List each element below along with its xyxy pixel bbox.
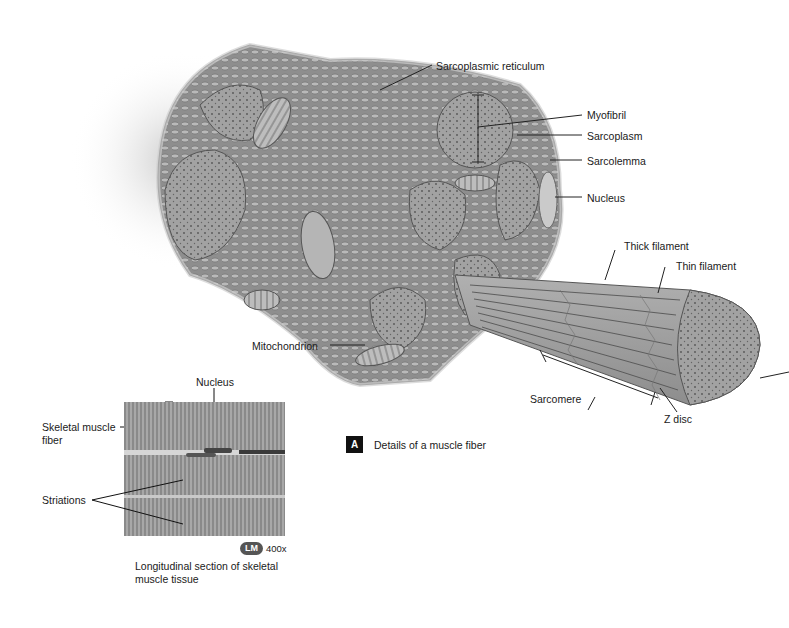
label-mitochondrion: Mitochondrion [252, 340, 318, 352]
micrograph-caption-line1: Longitudinal section of skeletal [135, 560, 278, 573]
myofibril-shape [437, 92, 513, 168]
label-myofibril: Myofibril [587, 109, 626, 121]
label-sarcoplasm: Sarcoplasm [587, 130, 642, 142]
panel-caption: Details of a muscle fiber [374, 439, 486, 451]
label-skeletal-muscle-fiber: Skeletal muscle fiber [42, 421, 116, 447]
myofibril-end-cap [678, 290, 761, 405]
label-striations: Striations [42, 494, 86, 506]
micrograph-caption: Longitudinal section of skeletal muscle … [135, 560, 278, 586]
nucleus-shape [539, 172, 557, 228]
muscle-fiber-illustration [0, 0, 789, 628]
label-thick-filament: Thick filament [624, 240, 689, 252]
mitochondrion-shape [455, 175, 495, 191]
label-skeletal-muscle-fiber-line1: Skeletal muscle [42, 421, 116, 434]
label-z-disc: Z disc [664, 413, 692, 425]
micrograph-nucleus [186, 453, 216, 457]
label-sarcoplasmic-reticulum: Sarcoplasmic reticulum [436, 60, 545, 72]
label-skeletal-muscle-fiber-line2: fiber [42, 434, 116, 447]
magnification-label: 400x [266, 543, 287, 555]
label-thin-filament: Thin filament [676, 260, 736, 272]
light-micrograph [124, 402, 285, 536]
fiber-boundary [124, 495, 285, 498]
micrograph-caption-line2: muscle tissue [135, 573, 278, 586]
lm-badge: LM [240, 542, 263, 555]
label-sarcomere: Sarcomere [530, 393, 581, 405]
label-nucleus: Nucleus [587, 192, 625, 204]
panel-letter-badge: A [346, 436, 363, 453]
micrograph-nucleus [239, 450, 285, 454]
mitochondrion-shape [244, 290, 280, 310]
label-sarcolemma: Sarcolemma [587, 155, 646, 167]
label-micrograph-nucleus: Nucleus [196, 376, 234, 388]
